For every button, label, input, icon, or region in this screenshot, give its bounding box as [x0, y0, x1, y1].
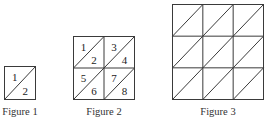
cell-diagonal — [74, 37, 105, 69]
cell-number-lower: 8 — [122, 85, 128, 97]
cell-number-lower: 6 — [91, 85, 97, 97]
figure-1: 12 — [5, 67, 36, 100]
cell-diagonal — [233, 5, 263, 37]
cell-diagonal — [173, 36, 203, 68]
cell-diagonal — [173, 68, 203, 100]
cell-number-upper: 1 — [12, 71, 17, 83]
cell-number-lower: 2 — [22, 85, 28, 97]
cell-number-upper: 5 — [81, 72, 87, 84]
cell-diagonal — [233, 36, 263, 68]
cell-diagonal — [203, 36, 233, 68]
cell-diagonal — [104, 68, 135, 100]
cell-number-upper: 7 — [111, 72, 117, 84]
figure-diagram: 12 12345678 Figure 1 Figure 2 Figure 3 — [0, 0, 270, 120]
cell-diagonal — [74, 68, 105, 100]
cell-diagonal — [203, 5, 233, 37]
cell-diagonal — [104, 37, 135, 69]
cell-number-upper: 1 — [81, 41, 87, 53]
figure-2-caption: Figure 2 — [86, 106, 121, 117]
cell-diagonal — [233, 68, 263, 100]
cell-number-lower: 2 — [91, 54, 97, 66]
figure-3 — [173, 5, 264, 100]
cell-diagonal — [173, 5, 203, 37]
cell-number-lower: 4 — [122, 54, 128, 66]
figure-1-caption: Figure 1 — [2, 106, 37, 117]
cell-diagonal — [5, 67, 36, 100]
figure-3-caption: Figure 3 — [200, 106, 235, 117]
cell-number-upper: 3 — [111, 41, 117, 53]
figure-2: 12345678 — [74, 37, 135, 100]
cell-diagonal — [203, 68, 233, 100]
